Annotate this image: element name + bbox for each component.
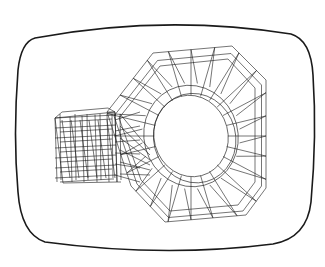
- flange-wireframe: [55, 46, 266, 222]
- wireframe-figure: [0, 0, 325, 267]
